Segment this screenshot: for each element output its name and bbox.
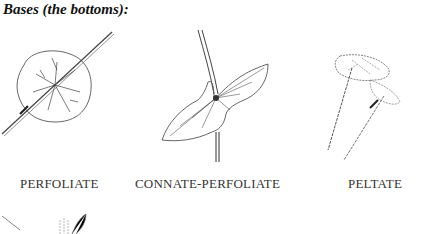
caption-perfoliate: PERFOLIATE [20,176,99,192]
caption-peltate: PELTATE [348,176,402,192]
perfoliate-leaf-illustration-icon [0,30,140,140]
peltate-leaf-illustration-icon [300,50,424,160]
connate-perfoliate-leaf-illustration-icon [140,22,290,172]
section-heading: Bases (the bottoms): [3,1,129,18]
caption-connate-perfoliate: CONNATE-PERFOLIATE [135,176,280,192]
partial-leaf-illustration-icon [0,212,100,234]
